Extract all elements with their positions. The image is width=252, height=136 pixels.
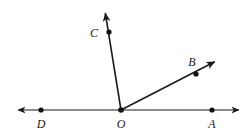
- point-dot-o: [118, 107, 124, 113]
- point-label-a: A: [208, 118, 215, 130]
- point-label-d: D: [37, 118, 46, 130]
- geometry-figure-canvas: C B D O A: [0, 0, 252, 136]
- ray-oc: [105, 13, 121, 110]
- point-label-c: C: [90, 27, 98, 39]
- point-label-b: B: [188, 56, 195, 68]
- point-dot-a: [209, 107, 214, 112]
- point-label-o: O: [117, 118, 126, 130]
- point-dot-d: [38, 107, 43, 112]
- geometry-diagram: [0, 0, 252, 136]
- ray-ob: [121, 62, 215, 110]
- point-dot-c: [106, 29, 111, 34]
- point-dot-b: [193, 71, 198, 76]
